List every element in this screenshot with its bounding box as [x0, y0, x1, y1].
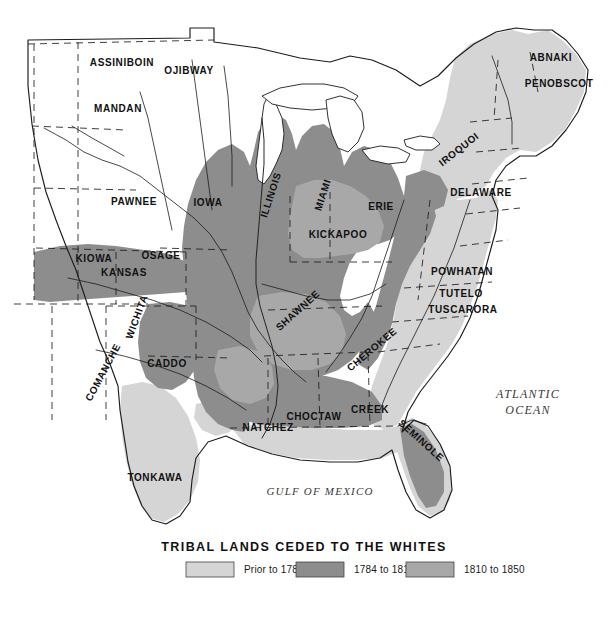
tribe-label-kansas: KANSAS — [101, 267, 147, 278]
tribe-label-powhatan: POWHATAN — [431, 266, 493, 277]
tribe-label-abnaki: ABNAKI — [530, 52, 573, 63]
legend-1810-1850-swatch — [406, 562, 454, 577]
legend-1784-1810[interactable]: 1784 to 1810 — [296, 562, 415, 577]
tribe-label-assiniboin: ASSINIBOIN — [90, 57, 154, 68]
tribe-label-erie: ERIE — [368, 201, 394, 212]
region-1784-1810-oklahoma — [138, 302, 198, 390]
tribe-label-creek: CREEK — [351, 404, 389, 415]
tribe-label-caddo: CADDO — [147, 358, 187, 369]
tribal-lands-map: ASSINIBOINOJIBWAYMANDANABNAKIPENOBSCOTPA… — [0, 0, 608, 617]
ocean-label-gulf-of-mexico: GULF OF MEXICO — [266, 485, 373, 497]
tribe-label-penobscot: PENOBSCOT — [525, 78, 594, 89]
legend-1784-1810-swatch — [296, 562, 344, 577]
legend-prior-1784[interactable]: Prior to 1784 — [186, 562, 304, 577]
tribe-label-kiowa: KIOWA — [76, 253, 113, 264]
tribe-label-kickapoo: KICKAPOO — [309, 229, 368, 240]
ocean-label-line1: GULF OF MEXICO — [266, 485, 373, 497]
legend-1810-1850[interactable]: 1810 to 1850 — [406, 562, 525, 577]
legend-prior-1784-label: Prior to 1784 — [244, 564, 304, 575]
tribe-label-tuscarora: TUSCARORA — [428, 304, 497, 315]
ocean-label-line2: OCEAN — [505, 403, 550, 417]
legend-1810-1850-label: 1810 to 1850 — [464, 564, 525, 575]
tribe-label-mandan: MANDAN — [94, 103, 142, 114]
tribe-label-delaware: DELAWARE — [450, 187, 511, 198]
legend-prior-1784-swatch — [186, 562, 234, 577]
tribe-label-tonkawa: TONKAWA — [127, 472, 182, 483]
legend-title: TRIBAL LANDS CEDED TO THE WHITES — [161, 540, 446, 554]
tribe-label-tutelo: TUTELO — [439, 288, 483, 299]
tribe-label-choctaw: CHOCTAW — [286, 411, 341, 422]
ocean-label-line1: ATLANTIC — [495, 387, 560, 401]
tribe-label-pawnee: PAWNEE — [111, 196, 157, 207]
tribe-label-natchez: NATCHEZ — [242, 422, 293, 433]
tribe-label-iowa: IOWA — [193, 197, 222, 208]
tribe-label-osage: OSAGE — [141, 250, 180, 261]
map-canvas: ASSINIBOINOJIBWAYMANDANABNAKIPENOBSCOTPA… — [0, 0, 608, 617]
tribe-label-ojibway: OJIBWAY — [164, 65, 213, 76]
